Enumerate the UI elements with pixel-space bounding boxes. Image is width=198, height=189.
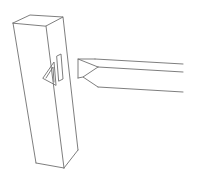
mortise-slot <box>57 54 63 81</box>
post-side-right-edge <box>63 17 78 150</box>
post-front-left-edge <box>13 23 36 163</box>
post-bottom-front-edge <box>36 163 64 168</box>
post-top-face <box>13 15 63 26</box>
rail-v-notch <box>83 67 98 87</box>
rail-bottom-edge <box>98 87 183 92</box>
post <box>13 15 78 168</box>
rail-top-back-edge <box>95 59 183 64</box>
post-front-right-edge <box>46 26 64 168</box>
rail-tenon <box>78 59 98 87</box>
post-bottom-side-edge <box>64 150 78 168</box>
rail-notch-bottom <box>78 77 83 78</box>
rail-end-top <box>78 59 98 67</box>
joinery-diagram <box>0 0 198 189</box>
rail-top-front-edge <box>98 67 183 72</box>
rail <box>95 59 183 92</box>
